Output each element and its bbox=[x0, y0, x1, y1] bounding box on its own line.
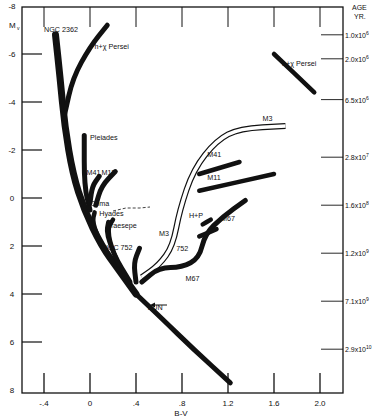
hr-diagram-chart: -.40.4.81.21.62.0-8-6-4-202468MvB-VAGEYR… bbox=[0, 0, 383, 417]
x-tick-label: 0 bbox=[88, 399, 93, 408]
y-tick-label: 2 bbox=[10, 242, 15, 251]
y-tick-label: 6 bbox=[10, 338, 15, 347]
age-tick-label: 2.9x1010 bbox=[345, 344, 372, 353]
age-tick-label: 7.1x109 bbox=[345, 296, 369, 305]
cluster-label: NGC 752 bbox=[103, 243, 133, 252]
y-tick-label: -2 bbox=[8, 146, 16, 155]
x-tick-label: 2.0 bbox=[314, 399, 326, 408]
y-axis-title-sub: v bbox=[17, 25, 20, 31]
y-tick-label: -8 bbox=[8, 2, 16, 11]
cluster-label: M3 bbox=[159, 229, 169, 238]
age-tick-label: 2.0x106 bbox=[345, 54, 369, 63]
x-tick-label: .8 bbox=[179, 399, 186, 408]
cluster-label: M67 bbox=[185, 274, 199, 283]
axis-labels: -.40.4.81.21.62.0-8-6-4-202468MvB-VAGEYR… bbox=[8, 2, 371, 417]
age-tick-label: 1.6x108 bbox=[345, 200, 369, 209]
age-tick-label: 1.2x109 bbox=[345, 248, 369, 257]
cluster-label: M11 bbox=[207, 173, 220, 182]
sequence-ngc-2362 bbox=[56, 35, 137, 294]
cluster-label: h+χ Persei bbox=[282, 59, 317, 68]
age-tick-label: 2.8x107 bbox=[345, 152, 369, 161]
cluster-label: NGC 2362 bbox=[44, 25, 78, 34]
y-tick-label: -6 bbox=[8, 50, 16, 59]
x-tick-label: .4 bbox=[133, 399, 140, 408]
sequence-m3 bbox=[142, 126, 286, 277]
right-axis-title: AGE bbox=[352, 4, 367, 11]
y-tick-label: -4 bbox=[8, 98, 16, 107]
cluster-label: Coma bbox=[90, 199, 109, 208]
cluster-label: 752 bbox=[176, 244, 188, 253]
cluster-label: h+χ Persei bbox=[95, 42, 130, 51]
sequence-h-persei bbox=[65, 25, 108, 114]
age-tick-label: 6.5x106 bbox=[345, 95, 369, 104]
age-tick-label: 1.0x106 bbox=[345, 30, 369, 39]
x-tick-label: -.4 bbox=[39, 399, 49, 408]
x-tick-label: 1.6 bbox=[268, 399, 280, 408]
cluster-label: M41 bbox=[207, 150, 221, 159]
sequence-ngc-752 bbox=[135, 248, 140, 282]
y-tick-label: 0 bbox=[10, 194, 15, 203]
cluster-label: Hyades bbox=[99, 209, 124, 218]
y-tick-label: 8 bbox=[10, 386, 15, 395]
cluster-label: Pleiades bbox=[90, 133, 118, 142]
x-axis-title: B-V bbox=[174, 409, 188, 417]
cluster-label: M67 bbox=[221, 214, 235, 223]
cluster-label: H+P bbox=[189, 211, 203, 220]
cluster-label: M3 bbox=[263, 114, 273, 123]
cluster-label: SUN bbox=[148, 303, 163, 312]
y-axis-title: M bbox=[9, 21, 16, 30]
right-axis-title: YR. bbox=[354, 13, 366, 20]
cluster-label: Praesepe bbox=[106, 221, 137, 230]
x-tick-label: 1.2 bbox=[222, 399, 234, 408]
cluster-label: M41 bbox=[87, 168, 101, 177]
y-tick-label: 4 bbox=[10, 290, 15, 299]
cluster-label: M11 bbox=[102, 168, 115, 177]
sequence-h-p-giants bbox=[203, 220, 211, 225]
